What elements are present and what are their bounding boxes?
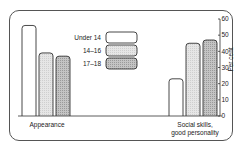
bar: [186, 43, 200, 116]
bar: [39, 53, 53, 116]
y-tick-label: 20: [222, 80, 230, 87]
bar-chart: 0102030405060Per cent Under 1414–1617–18…: [0, 0, 249, 153]
x-tick-label: Appearance: [29, 121, 64, 129]
legend-label: 17–18: [83, 60, 101, 67]
legend-swatch: [106, 45, 137, 56]
bar: [22, 25, 36, 116]
legend-label: 14–16: [83, 47, 101, 54]
bar: [56, 56, 70, 116]
y-tick-label: 10: [222, 96, 230, 103]
legend-swatch: [106, 32, 137, 43]
y-axis-label: Per cent: [227, 47, 234, 71]
x-tick-label: good personality: [171, 129, 219, 137]
bar: [203, 40, 217, 116]
x-tick-label: Social skills,: [177, 121, 213, 128]
legend-label: Under 14: [74, 34, 101, 41]
y-tick-label: 50: [222, 31, 230, 38]
bar: [169, 79, 183, 116]
y-tick-label: 60: [222, 15, 230, 22]
legend-swatch: [106, 58, 137, 69]
y-tick-label: 0: [222, 112, 226, 119]
